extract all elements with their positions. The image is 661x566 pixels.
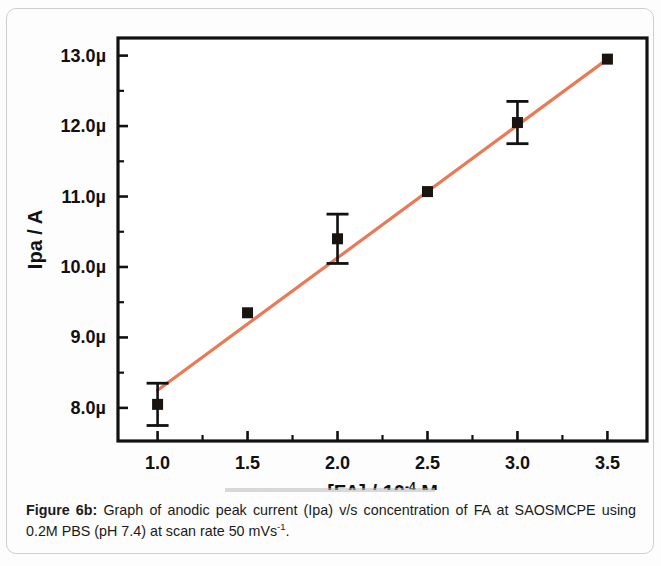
chart-canvas: 8.0µ9.0µ10.0µ11.0µ12.0µ13.0µ1.01.52.02.5…	[0, 0, 661, 490]
x-tick-label: 3.0	[505, 453, 530, 473]
caption-end: .	[286, 523, 290, 539]
y-tick-label: 13.0µ	[61, 46, 106, 66]
x-tick-label: 1.0	[145, 453, 170, 473]
caption-label: Figure 6b:	[26, 502, 97, 518]
figure-caption: Figure 6b: Graph of anodic peak current …	[26, 500, 636, 541]
x-tick-label: 2.5	[415, 453, 440, 473]
x-tick-label: 1.5	[235, 453, 260, 473]
figure-page: 8.0µ9.0µ10.0µ11.0µ12.0µ13.0µ1.01.52.02.5…	[0, 0, 661, 566]
data-point-marker	[512, 117, 523, 128]
y-tick-label: 11.0µ	[62, 187, 106, 207]
y-tick-label: 9.0µ	[71, 327, 106, 347]
page-artifact-line	[225, 488, 435, 492]
data-point-marker	[602, 54, 613, 65]
data-point-marker	[422, 186, 433, 197]
caption-body: Graph of anodic peak current (Ipa) v/s c…	[26, 502, 636, 539]
plot-frame	[118, 38, 647, 441]
y-tick-label: 8.0µ	[71, 398, 106, 418]
x-tick-label: 2.0	[325, 453, 350, 473]
x-tick-label: 3.5	[595, 453, 620, 473]
data-point-marker	[242, 307, 253, 318]
data-point-marker	[332, 233, 343, 244]
caption-superscript: -1	[277, 521, 285, 532]
y-tick-label: 12.0µ	[61, 116, 106, 136]
data-point-marker	[152, 399, 163, 410]
y-tick-label: 10.0µ	[61, 257, 106, 277]
y-axis-title: Ipa / A	[24, 210, 46, 269]
chart-figure: 8.0µ9.0µ10.0µ11.0µ12.0µ13.0µ1.01.52.02.5…	[0, 0, 661, 490]
